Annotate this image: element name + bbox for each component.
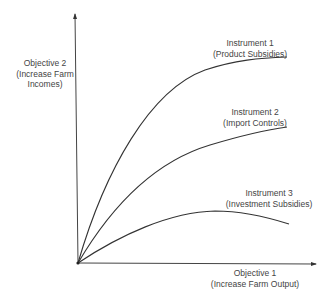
- x-axis: [78, 263, 316, 264]
- x-axis-label-line1: Objective 1: [200, 268, 310, 279]
- x-axis-label-line2: (Increase Farm Output): [200, 279, 310, 290]
- y-axis-label: Objective 2 (Increase Farm Incomes): [10, 58, 80, 90]
- curve-3-label: Instrument 3 (Investment Subsidies): [214, 188, 324, 209]
- origin-point: [76, 261, 79, 264]
- curve-1-label: Instrument 1 (Product Subsidies): [195, 38, 305, 59]
- curve-2-label-line1: Instrument 2: [200, 107, 310, 118]
- curve-1-label-line1: Instrument 1: [195, 38, 305, 49]
- x-axis-label: Objective 1 (Increase Farm Output): [200, 268, 310, 289]
- y-axis-label-line2: (Increase Farm: [10, 69, 80, 80]
- curve-2-label-line2: (Import Controls): [200, 118, 310, 129]
- policy-instruments-diagram: Objective 2 (Increase Farm Incomes) Inst…: [0, 0, 328, 293]
- y-axis-label-line1: Objective 2: [10, 58, 80, 69]
- curve-2-label: Instrument 2 (Import Controls): [200, 107, 310, 128]
- curve-3-label-line1: Instrument 3: [214, 188, 324, 199]
- y-axis-label-line3: Incomes): [10, 79, 80, 90]
- curve-1-label-line2: (Product Subsidies): [195, 49, 305, 60]
- y-axis: [75, 14, 78, 263]
- curve-3-label-line2: (Investment Subsidies): [214, 199, 324, 210]
- curve-instrument-3: [78, 211, 289, 263]
- curve-instrument-1: [78, 57, 287, 263]
